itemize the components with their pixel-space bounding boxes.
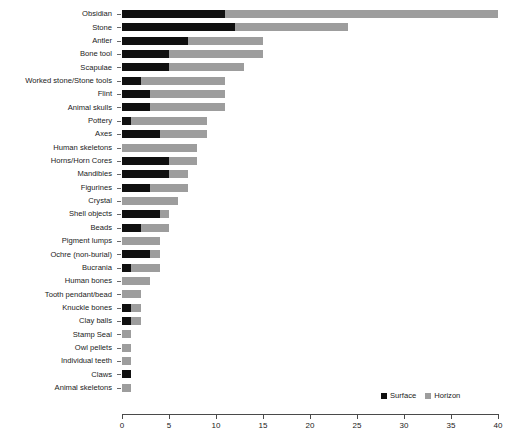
bar-segment-horizon	[150, 90, 225, 98]
bar-row	[122, 384, 131, 392]
bar-segment-surface	[122, 90, 150, 98]
bar-segment-horizon	[141, 77, 226, 85]
bar-segment-horizon	[169, 50, 263, 58]
y-axis-tick	[117, 281, 121, 282]
y-axis-tick	[117, 121, 121, 122]
bar-segment-horizon	[150, 184, 188, 192]
y-axis-tick	[117, 94, 121, 95]
bar-row	[122, 344, 131, 352]
y-axis-tick	[117, 361, 121, 362]
bar-row	[122, 77, 225, 85]
x-axis-tick	[498, 415, 499, 419]
bar-row	[122, 224, 169, 232]
bar-row	[122, 170, 188, 178]
bar-row	[122, 90, 225, 98]
bar-row	[122, 63, 244, 71]
bar-segment-horizon	[150, 103, 225, 111]
y-axis-label: Animal skulls	[68, 104, 112, 112]
x-axis-tick	[357, 415, 358, 419]
bar-row	[122, 117, 207, 125]
bar-segment-surface	[122, 103, 150, 111]
y-axis-label: Scapulae	[80, 64, 112, 72]
x-axis-tick-label: 5	[167, 421, 171, 430]
y-axis-label: Bone tool	[80, 50, 112, 58]
legend-label: Surface	[390, 392, 416, 400]
y-axis-tick	[117, 41, 121, 42]
x-axis-tick	[404, 415, 405, 419]
bar-segment-horizon	[122, 330, 131, 338]
bar-segment-surface	[122, 37, 188, 45]
y-axis-labels: ObsidianStoneAntlerBone toolScapulaeWork…	[0, 0, 116, 412]
bar-row	[122, 304, 141, 312]
y-axis-label: Beads	[90, 224, 112, 232]
x-axis-tick-label: 40	[494, 421, 503, 430]
bar-segment-surface	[122, 157, 169, 165]
bar-segment-surface	[122, 63, 169, 71]
y-axis-tick	[117, 214, 121, 215]
bar-segment-horizon	[122, 384, 131, 392]
bar-segment-horizon	[225, 10, 498, 18]
bar-segment-horizon	[131, 304, 140, 312]
y-axis-label: Worked stone/Stone tools	[25, 77, 112, 85]
bar-row	[122, 130, 207, 138]
bar-row	[122, 237, 160, 245]
legend-swatch	[381, 393, 387, 399]
stacked-bar-chart: ObsidianStoneAntlerBone toolScapulaeWork…	[0, 0, 509, 445]
y-axis-label: Pigment lumps	[62, 237, 112, 245]
y-axis-tick	[117, 241, 121, 242]
x-axis-tick-label: 30	[400, 421, 409, 430]
bar-row	[122, 184, 188, 192]
bar-segment-horizon	[160, 130, 207, 138]
bar-segment-horizon	[150, 250, 159, 258]
y-axis-tick	[117, 348, 121, 349]
bar-segment-horizon	[131, 317, 140, 325]
x-axis-tick	[263, 415, 264, 419]
y-axis-tick	[117, 374, 121, 375]
bar-row	[122, 197, 178, 205]
legend-label: Horizon	[434, 392, 460, 400]
bar-segment-surface	[122, 23, 235, 31]
y-axis-tick	[117, 27, 121, 28]
bar-segment-horizon	[141, 224, 169, 232]
chart-legend: SurfaceHorizon	[381, 392, 460, 400]
bar-segment-horizon	[122, 197, 178, 205]
bar-segment-surface	[122, 170, 169, 178]
bar-segment-horizon	[122, 277, 150, 285]
bar-row	[122, 317, 141, 325]
bar-row	[122, 330, 131, 338]
y-axis-label: Mandibles	[77, 170, 112, 178]
y-axis-tick	[117, 268, 121, 269]
bar-segment-horizon	[235, 23, 348, 31]
bar-segment-surface	[122, 264, 131, 272]
y-axis-tick	[117, 321, 121, 322]
plot-area	[122, 10, 498, 414]
bar-row	[122, 264, 160, 272]
y-axis-label: Individual teeth	[61, 357, 112, 365]
y-axis-label: Ochre (non-burial)	[50, 251, 112, 259]
y-axis-tick	[117, 294, 121, 295]
y-axis-tick	[117, 14, 121, 15]
bar-row	[122, 210, 169, 218]
y-axis-tick	[117, 148, 121, 149]
bar-segment-surface	[122, 250, 150, 258]
bar-segment-horizon	[169, 63, 244, 71]
bar-segment-surface	[122, 224, 141, 232]
bar-segment-surface	[122, 184, 150, 192]
bar-segment-horizon	[169, 157, 197, 165]
bar-row	[122, 23, 348, 31]
bar-segment-surface	[122, 370, 131, 378]
y-axis-label: Pottery	[88, 117, 112, 125]
x-axis-tick-label: 25	[353, 421, 362, 430]
x-axis-tick	[451, 415, 452, 419]
y-axis-label: Owl pellets	[75, 344, 112, 352]
bar-row	[122, 103, 225, 111]
bar-segment-surface	[122, 130, 160, 138]
bar-segment-surface	[122, 210, 160, 218]
bar-segment-horizon	[160, 210, 169, 218]
y-axis-tick	[117, 134, 121, 135]
bar-row	[122, 357, 131, 365]
y-axis-label: Figurines	[81, 184, 112, 192]
y-axis-tick	[117, 54, 121, 55]
bar-segment-surface	[122, 50, 169, 58]
bar-segment-horizon	[169, 170, 188, 178]
